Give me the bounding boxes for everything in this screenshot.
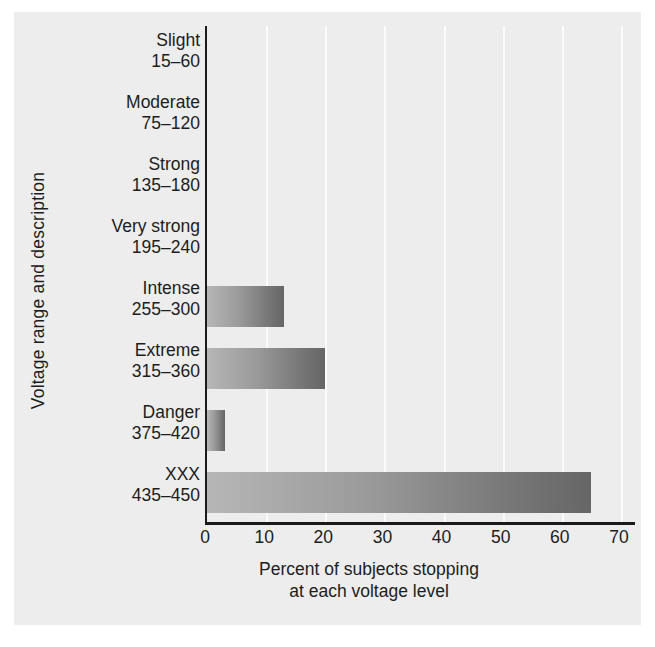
bar bbox=[207, 286, 284, 327]
category-voltage-range: 375–420 bbox=[54, 423, 200, 444]
category-label: Very strong195–240 bbox=[54, 216, 200, 258]
x-axis-title-line2: at each voltage level bbox=[134, 580, 604, 602]
gridline bbox=[444, 26, 446, 522]
x-tick-label: 60 bbox=[540, 527, 580, 548]
x-axis-line bbox=[205, 522, 635, 525]
x-tick-label: 50 bbox=[481, 527, 521, 548]
category-voltage-range: 195–240 bbox=[54, 237, 200, 258]
category-label: Strong135–180 bbox=[54, 154, 200, 196]
category-name: Strong bbox=[54, 154, 200, 175]
category-label-column: Slight15–60Moderate75–120Strong135–180Ve… bbox=[54, 26, 200, 522]
plot-area bbox=[205, 26, 621, 522]
x-tick-label: 0 bbox=[185, 527, 225, 548]
category-name: Intense bbox=[54, 278, 200, 299]
x-tick-label: 10 bbox=[244, 527, 284, 548]
x-axis-tick-labels: 010203040506070 bbox=[205, 527, 635, 553]
category-name: XXX bbox=[54, 464, 200, 485]
category-label: XXX435–450 bbox=[54, 464, 200, 506]
category-label: Moderate75–120 bbox=[54, 92, 200, 134]
category-voltage-range: 135–180 bbox=[54, 175, 200, 196]
category-voltage-range: 255–300 bbox=[54, 299, 200, 320]
category-voltage-range: 435–450 bbox=[54, 485, 200, 506]
bar bbox=[207, 472, 591, 513]
category-name: Moderate bbox=[54, 92, 200, 113]
chart-figure: Voltage range and description Slight15–6… bbox=[14, 12, 641, 625]
category-label: Slight15–60 bbox=[54, 30, 200, 72]
x-axis-title-line1: Percent of subjects stopping bbox=[134, 558, 604, 580]
x-tick-label: 30 bbox=[362, 527, 402, 548]
x-tick-label: 20 bbox=[303, 527, 343, 548]
gridline bbox=[266, 26, 268, 522]
category-name: Extreme bbox=[54, 340, 200, 361]
gridline bbox=[621, 26, 623, 522]
x-axis-title: Percent of subjects stopping at each vol… bbox=[134, 558, 604, 602]
x-tick-label: 70 bbox=[599, 527, 639, 548]
x-tick-label: 40 bbox=[422, 527, 462, 548]
category-name: Danger bbox=[54, 402, 200, 423]
gridline bbox=[325, 26, 327, 522]
bar bbox=[207, 410, 225, 451]
category-name: Slight bbox=[54, 30, 200, 51]
category-label: Danger375–420 bbox=[54, 402, 200, 444]
gridline bbox=[384, 26, 386, 522]
category-voltage-range: 15–60 bbox=[54, 51, 200, 72]
category-voltage-range: 315–360 bbox=[54, 361, 200, 382]
category-label: Intense255–300 bbox=[54, 278, 200, 320]
category-label: Extreme315–360 bbox=[54, 340, 200, 382]
y-axis-title: Voltage range and description bbox=[28, 121, 49, 461]
gridline bbox=[503, 26, 505, 522]
category-voltage-range: 75–120 bbox=[54, 113, 200, 134]
gridline bbox=[562, 26, 564, 522]
category-name: Very strong bbox=[54, 216, 200, 237]
bar bbox=[207, 348, 325, 389]
